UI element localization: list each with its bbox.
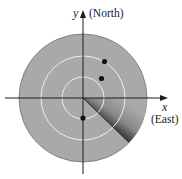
north-label: (North) bbox=[89, 7, 124, 20]
target-dot bbox=[80, 115, 85, 120]
x-axis-label: x bbox=[161, 100, 168, 114]
target-dot bbox=[99, 76, 104, 81]
y-axis-arrow-icon bbox=[80, 10, 86, 18]
y-axis-label: y bbox=[72, 6, 79, 20]
target-dot bbox=[102, 59, 107, 64]
radar-diagram: y (North) x (East) bbox=[0, 0, 182, 179]
east-label: (East) bbox=[151, 113, 179, 126]
